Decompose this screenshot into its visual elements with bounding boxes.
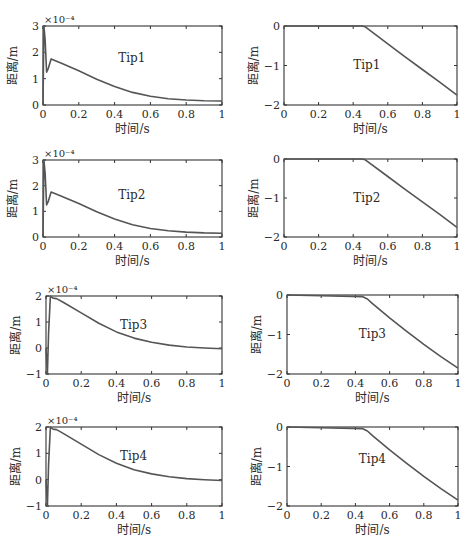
tip-annotation: Tip4	[359, 452, 387, 466]
y-tick-label: −1	[264, 192, 280, 205]
tip-annotation: Tip2	[118, 188, 145, 202]
x-tick-label: 0.2	[312, 377, 330, 390]
y-tick-label: 0	[276, 289, 283, 302]
x-tick-label: 0.4	[347, 509, 365, 522]
y-tick-label: 0	[35, 474, 42, 487]
y-axis-label: 距离/m	[249, 446, 264, 486]
y-scale-label: ×10⁻⁴	[47, 415, 77, 426]
x-axis-label: 时间/s	[115, 254, 149, 268]
x-tick-label: 0.6	[381, 509, 399, 522]
chart-panel-left-2: 00.20.40.60.810123×10⁻⁴Tip2时间/s距离/m	[3, 146, 230, 269]
x-axis-label: 时间/s	[117, 523, 151, 537]
y-tick-label: 0	[35, 342, 42, 355]
y-axis-label: 距离/m	[246, 45, 261, 85]
x-tick-label: 1	[219, 377, 226, 390]
x-tick-label: 0.4	[108, 377, 126, 390]
x-tick-label: 0	[43, 377, 50, 390]
x-tick-label: 0.4	[344, 108, 362, 121]
x-tick-label: 0	[40, 240, 47, 253]
x-tick-label: 0.6	[143, 377, 161, 390]
chart-panel-right-1: 00.20.40.60.81−2−10Tip1时间/s距离/m	[244, 12, 465, 137]
y-tick-label: −1	[267, 329, 283, 342]
y-tick-label: 1	[32, 73, 39, 86]
chart-panel-right-4: 00.20.40.60.81−2−10Tip4时间/s距离/m	[247, 413, 466, 538]
x-tick-label: 0.2	[72, 509, 90, 522]
y-tick-label: 2	[35, 290, 42, 303]
tip-annotation: Tip1	[118, 51, 145, 65]
chart-panel-left-1: 00.20.40.60.810123×10⁻⁴Tip1时间/s距离/m	[3, 12, 230, 137]
x-tick-label: 0.2	[72, 377, 90, 390]
x-tick-label: 0.6	[142, 240, 160, 253]
y-tick-label: −1	[26, 368, 42, 381]
tip-annotation: Tip1	[353, 58, 380, 72]
tip-annotation: Tip3	[359, 327, 386, 341]
x-tick-label: 1	[219, 240, 226, 253]
y-axis-label: 距离/m	[5, 45, 20, 85]
y-tick-label: 2	[32, 46, 39, 59]
tip-annotation: Tip4	[120, 449, 148, 463]
x-tick-label: 0.8	[177, 108, 195, 121]
tip-annotation: Tip3	[120, 318, 147, 332]
x-tick-label: 0	[40, 108, 47, 121]
y-axis-label: 距离/m	[5, 178, 20, 218]
y-axis-label: 距离/m	[8, 446, 23, 486]
x-tick-label: 0.6	[379, 108, 397, 121]
x-tick-label: 0.6	[381, 377, 399, 390]
tip-annotation: Tip2	[353, 191, 380, 205]
x-tick-label: 0	[284, 377, 291, 390]
x-tick-label: 0.4	[106, 240, 124, 253]
y-tick-label: −2	[264, 99, 280, 112]
x-tick-label: 0.8	[415, 377, 433, 390]
y-tick-label: −1	[267, 461, 283, 474]
x-tick-label: 0.8	[178, 509, 196, 522]
x-tick-label: 0.6	[143, 509, 161, 522]
y-tick-label: 3	[32, 20, 39, 33]
x-tick-label: 0.2	[70, 108, 88, 121]
y-tick-label: −2	[264, 231, 280, 244]
y-scale-label: ×10⁻⁴	[44, 14, 74, 25]
x-tick-label: 0.2	[310, 108, 328, 121]
x-axis-label: 时间/s	[117, 391, 151, 405]
x-tick-label: 0.8	[414, 108, 432, 121]
y-tick-label: 1	[35, 316, 42, 329]
y-tick-label: 2	[35, 421, 42, 434]
x-tick-label: 1	[454, 108, 461, 121]
x-tick-label: 0.8	[178, 377, 196, 390]
x-tick-label: 0	[284, 509, 291, 522]
y-tick-label: 0	[273, 153, 280, 166]
chart-panel-right-3: 00.20.40.60.81−2−10Tip3时间/s距离/m	[247, 281, 466, 406]
x-tick-label: 1	[455, 509, 462, 522]
x-tick-label: 0.4	[106, 108, 124, 121]
y-tick-label: −2	[267, 500, 283, 513]
y-tick-label: 0	[32, 231, 39, 244]
x-tick-label: 0.8	[415, 509, 433, 522]
y-tick-label: 0	[273, 20, 280, 33]
x-tick-label: 1	[219, 509, 226, 522]
x-tick-label: 0.4	[347, 377, 365, 390]
y-tick-label: 3	[32, 154, 39, 167]
x-tick-label: 1	[455, 377, 462, 390]
y-tick-label: −1	[26, 500, 42, 513]
y-axis-label: 距离/m	[8, 315, 23, 355]
y-axis-label: 距离/m	[246, 178, 261, 218]
x-tick-label: 0	[281, 108, 288, 121]
x-tick-label: 0.4	[108, 509, 126, 522]
x-tick-label: 0.4	[344, 240, 362, 253]
y-tick-label: −2	[267, 368, 283, 381]
chart-panel-left-4: 00.20.40.60.81−1012×10⁻⁴Tip4时间/s距离/m	[6, 413, 230, 538]
x-tick-label: 0	[43, 509, 50, 522]
x-tick-label: 0.6	[142, 108, 160, 121]
y-tick-label: 0	[276, 421, 283, 434]
y-tick-label: 1	[32, 205, 39, 218]
y-tick-label: 2	[32, 180, 39, 193]
x-tick-label: 0.2	[310, 240, 328, 253]
x-axis-label: 时间/s	[355, 391, 389, 405]
x-axis-label: 时间/s	[353, 122, 387, 136]
x-tick-label: 1	[219, 108, 226, 121]
y-axis-label: 距离/m	[249, 314, 264, 354]
x-tick-label: 0.6	[379, 240, 397, 253]
x-tick-label: 1	[454, 240, 461, 253]
x-tick-label: 0.2	[312, 509, 330, 522]
y-tick-label: −1	[264, 60, 280, 73]
x-axis-label: 时间/s	[115, 122, 149, 136]
